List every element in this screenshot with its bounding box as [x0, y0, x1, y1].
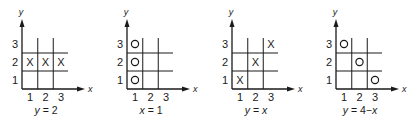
x-axis-label: x: [192, 84, 198, 94]
y-axis-label: y: [18, 7, 24, 17]
y-tick-label: 2: [222, 56, 228, 68]
y-tick-label: 2: [12, 56, 18, 68]
equation-caption: x = 1: [138, 104, 162, 116]
figure-canvas: yx123123XXXy = 2yx123123x = 1yx123123XXX…: [0, 0, 418, 125]
y-tick-label: 1: [117, 74, 123, 86]
x-tick-label: 3: [58, 91, 64, 103]
y-tick-label: 1: [326, 74, 332, 86]
x-axis-arrowhead-icon: [182, 87, 190, 92]
x-axis-label: x: [297, 84, 303, 94]
x-tick-label: 2: [356, 91, 362, 103]
y-tick-label: 1: [222, 74, 228, 86]
y-axis-arrowhead-icon: [334, 19, 339, 27]
x-axis-arrowhead-icon: [287, 87, 295, 92]
y-tick-label: 3: [117, 38, 123, 50]
o-mark-icon: [131, 58, 138, 65]
x-tick-label: 3: [268, 91, 274, 103]
x-tick-label: 1: [27, 91, 33, 103]
equation-caption: y = x: [244, 104, 268, 116]
y-axis-label: y: [228, 7, 234, 17]
x-axis-arrowhead-icon: [77, 87, 85, 92]
o-mark-icon: [131, 76, 138, 83]
x-tick-label: 3: [163, 91, 169, 103]
o-mark-icon: [356, 58, 363, 65]
x-tick-label: 3: [372, 91, 378, 103]
o-mark-icon: [371, 76, 378, 83]
equation-caption: y = 2: [33, 104, 57, 116]
y-axis-label: y: [123, 7, 129, 17]
x-mark-icon: X: [57, 56, 65, 68]
y-tick-label: 2: [326, 56, 332, 68]
y-tick-label: 1: [12, 74, 18, 86]
y-axis-arrowhead-icon: [230, 19, 235, 27]
y-axis-arrowhead-icon: [20, 19, 25, 27]
x-axis-label: x: [401, 84, 407, 94]
x-tick-label: 2: [147, 91, 153, 103]
x-tick-label: 1: [237, 91, 243, 103]
x-mark-icon: X: [42, 56, 50, 68]
x-mark-icon: X: [252, 56, 260, 68]
o-mark-icon: [340, 40, 347, 47]
y-axis-label: y: [332, 7, 338, 17]
x-tick-label: 2: [252, 91, 258, 103]
y-tick-label: 3: [222, 38, 228, 50]
panel-y-eq-x: yx123123XXXy = x: [222, 7, 303, 116]
panel-x-eq-1: yx123123x = 1: [117, 7, 198, 116]
grid-diagrams-figure: yx123123XXXy = 2yx123123x = 1yx123123XXX…: [0, 0, 418, 125]
x-axis-arrowhead-icon: [391, 87, 399, 92]
x-mark-icon: X: [267, 38, 275, 50]
y-tick-label: 2: [117, 56, 123, 68]
panel-y-eq-4-minus-x: yx123123y = 4−x: [326, 7, 407, 116]
x-tick-label: 2: [42, 91, 48, 103]
y-tick-label: 3: [326, 38, 332, 50]
x-mark-icon: X: [236, 74, 244, 86]
y-axis-arrowhead-icon: [125, 19, 130, 27]
equation-caption: y = 4−x: [342, 104, 378, 116]
x-tick-label: 1: [341, 91, 347, 103]
o-mark-icon: [131, 40, 138, 47]
x-tick-label: 1: [132, 91, 138, 103]
panel-y-eq-2: yx123123XXXy = 2: [12, 7, 93, 116]
x-axis-label: x: [87, 84, 93, 94]
x-mark-icon: X: [26, 56, 34, 68]
y-tick-label: 3: [12, 38, 18, 50]
